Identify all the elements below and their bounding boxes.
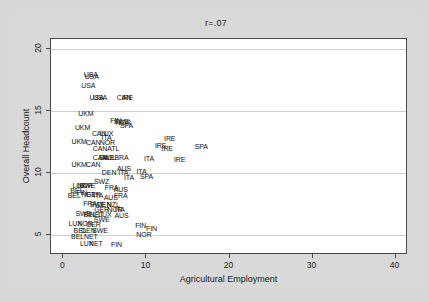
data-point-label: NOR <box>136 230 151 237</box>
data-point-label: FIN <box>135 222 146 229</box>
x-tick-mark <box>395 254 396 258</box>
data-point-label: UKM <box>78 110 93 117</box>
y-tick-label: 5 <box>33 232 43 237</box>
data-point-label: ATL <box>107 145 119 152</box>
y-tick-label: 10 <box>33 167 43 176</box>
data-point-label: CAN <box>93 145 107 152</box>
y-tick-label: 15 <box>33 105 43 114</box>
data-point-label: IRE <box>122 94 133 101</box>
data-point-label: ITA <box>93 192 103 199</box>
data-point-label: ITA <box>124 173 134 180</box>
data-point-label: NET <box>89 239 103 246</box>
gridline <box>51 111 406 112</box>
x-tick-mark <box>229 254 230 258</box>
data-point-label: AUS <box>115 212 129 219</box>
data-point-label: USA <box>81 81 95 88</box>
data-point-label: BEL <box>68 192 81 199</box>
x-tick-label: 30 <box>307 260 316 270</box>
data-point-label: UKM <box>75 124 90 131</box>
data-point-label: SPA <box>195 142 208 149</box>
x-tick-mark <box>312 254 313 258</box>
y-axis-title: Overall Headcount <box>21 109 31 184</box>
x-tick-label: 40 <box>390 260 399 270</box>
chart-title: r=.07 <box>14 18 418 28</box>
data-point-label: IRE <box>162 145 173 152</box>
data-point-label: DEN <box>102 168 116 175</box>
figure-canvas: r=.07 Overall Headcount Agricultural Emp… <box>14 12 418 290</box>
data-point-label: USA <box>93 94 107 101</box>
data-point-label: USA <box>85 73 99 80</box>
data-point-label: CAN <box>86 161 100 168</box>
gridline <box>51 235 406 236</box>
data-point-label: FIN <box>111 240 122 247</box>
x-tick-mark <box>62 254 63 258</box>
data-point-label: SPA <box>120 121 133 128</box>
chart-screenshot: r=.07 Overall Headcount Agricultural Emp… <box>0 0 429 302</box>
plot-area: USAUSAUSAUSAUSACANIREUKMFINSWENORSPAUKMC… <box>50 38 407 254</box>
x-tick-mark <box>145 254 146 258</box>
data-point-label: UKM <box>72 161 87 168</box>
data-point-label: FRA <box>114 192 128 199</box>
data-point-label: ITA <box>144 155 154 162</box>
gridline <box>51 49 406 50</box>
data-point-label: IRE <box>174 156 185 163</box>
data-point-label: UKM <box>72 137 87 144</box>
data-point-label: SWE <box>99 153 115 160</box>
data-point-label: BRA <box>115 153 129 160</box>
x-axis-title: Agricultural Employment <box>50 274 407 284</box>
x-tick-label: 20 <box>224 260 233 270</box>
x-tick-label: 10 <box>141 260 150 270</box>
x-tick-label: 0 <box>60 260 65 270</box>
data-point-label: SPA <box>140 172 153 179</box>
y-tick-label: 20 <box>33 43 43 52</box>
